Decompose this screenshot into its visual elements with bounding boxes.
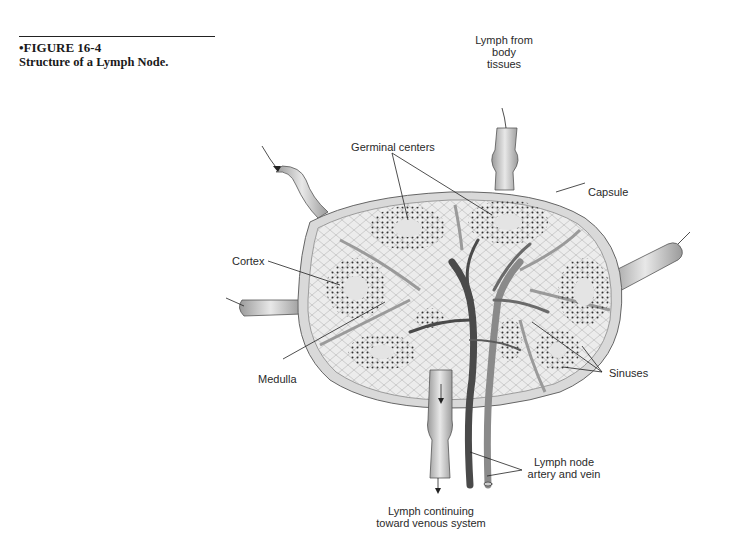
label-lymph-continuing: Lymph continuing toward venous system: [372, 505, 490, 529]
label-cortex: Cortex: [232, 255, 264, 267]
afferent-vessel-top: [492, 108, 518, 190]
label-capsule: Capsule: [588, 186, 628, 198]
afferent-vessel-left: [226, 298, 302, 316]
lymph-node-diagram: [0, 0, 737, 552]
label-sinuses: Sinuses: [609, 367, 648, 379]
label-germinal-centers: Germinal centers: [340, 141, 446, 153]
label-medulla: Medulla: [258, 373, 297, 385]
efferent-vessel: [428, 370, 453, 494]
label-lymph-from-tissues: Lymph from body tissues: [464, 34, 544, 70]
label-artery-vein: Lymph node artery and vein: [522, 456, 606, 480]
afferent-vessel-top-left: [262, 146, 328, 218]
